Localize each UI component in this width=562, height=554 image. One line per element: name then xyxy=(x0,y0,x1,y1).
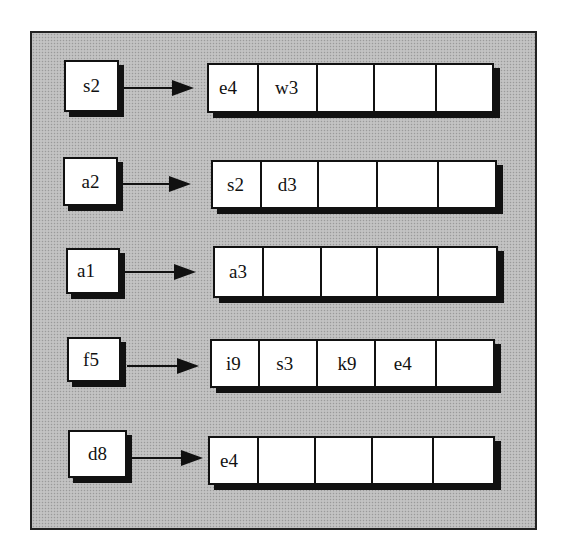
bucket-array: a3 xyxy=(213,246,498,298)
key-label: a1 xyxy=(77,260,95,282)
array-cell xyxy=(373,438,434,483)
array-cell xyxy=(264,248,321,296)
key-label: d8 xyxy=(88,443,107,465)
array-cell: i9 xyxy=(212,341,260,386)
array-cell xyxy=(375,65,437,111)
key-label: s2 xyxy=(83,75,100,97)
arrow-icon xyxy=(125,263,196,281)
bucket-array: i9 s3 k9 e4 xyxy=(210,339,495,388)
bucket-array: s2 d3 xyxy=(211,160,497,209)
arrow-icon xyxy=(123,175,191,193)
array-cell xyxy=(437,65,492,111)
array-cell: w3 xyxy=(259,65,318,111)
key-box: a2 xyxy=(63,157,118,206)
arrow-icon xyxy=(127,357,199,375)
array-cell: e4 xyxy=(209,65,259,111)
bucket-array: e4 w3 xyxy=(207,63,494,113)
key-box: f5 xyxy=(67,337,121,382)
array-cell xyxy=(439,162,495,207)
array-cell xyxy=(434,438,493,483)
arrow-icon xyxy=(132,449,203,467)
key-label: a2 xyxy=(82,171,100,193)
bucket-array: e4 xyxy=(208,436,495,485)
array-cell xyxy=(378,162,440,207)
array-cell: e4 xyxy=(210,438,259,483)
array-cell: a3 xyxy=(215,248,264,296)
key-box: d8 xyxy=(68,430,127,478)
arrow-icon xyxy=(124,79,194,97)
array-cell xyxy=(437,341,493,386)
array-cell xyxy=(322,248,378,296)
array-cell xyxy=(439,248,496,296)
array-cell xyxy=(378,248,439,296)
array-cell: d3 xyxy=(262,162,320,207)
array-cell: e4 xyxy=(376,341,437,386)
array-cell xyxy=(319,162,378,207)
array-cell xyxy=(318,65,375,111)
array-cell: k9 xyxy=(318,341,376,386)
array-cell: s3 xyxy=(260,341,317,386)
array-cell: s2 xyxy=(213,162,262,207)
array-cell xyxy=(259,438,315,483)
array-cell xyxy=(316,438,373,483)
key-box: s2 xyxy=(64,60,119,112)
key-label: f5 xyxy=(83,349,99,371)
key-box: a1 xyxy=(66,248,120,294)
